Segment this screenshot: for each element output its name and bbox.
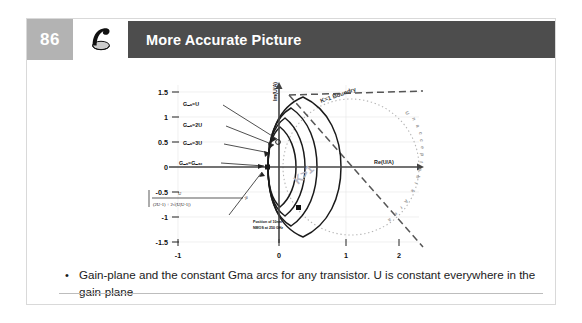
x-tick-marks — [178, 239, 399, 246]
y-tick-label: 0.5 — [158, 138, 168, 147]
svg-text:A: A — [403, 198, 410, 205]
x-axis-label: Re(U/A) — [374, 159, 394, 165]
gma-3u-label: Gₘₐ=3U — [183, 140, 202, 146]
gma-u-label: Gₘₐ=U — [183, 101, 199, 107]
y-tick-label: -0.5 — [156, 188, 168, 197]
svg-text:U: U — [404, 110, 411, 116]
x-tick-label: -1 — [175, 251, 181, 260]
k1-boundary-label: K=1 Boundry — [319, 86, 357, 104]
formula-denominator: (2U-1) + 2√(U|U-1|) — [153, 202, 191, 207]
x-tick-label: 0 — [277, 251, 281, 260]
x-tick-label: 2 — [397, 251, 401, 260]
svg-text:b: b — [415, 175, 422, 180]
y-tick-label: -1 — [162, 213, 168, 222]
device-point-marker — [296, 205, 301, 210]
svg-text:c: c — [418, 131, 424, 135]
svg-text:e: e — [410, 188, 417, 194]
svg-text:n: n — [411, 116, 418, 121]
ribbon-swirl-logo-icon — [73, 19, 128, 60]
y-tick-label: -1.5 — [156, 238, 168, 247]
y-tick-label: 1 — [164, 113, 168, 122]
y-tick-label: 0 — [164, 163, 168, 172]
gma-2u-label: Gₘₐ=2U — [183, 122, 202, 128]
svg-text:l: l — [413, 182, 419, 186]
slide-title-bar: More Accurate Picture — [128, 21, 555, 58]
slide-bullet: • Gain-plane and the constant Gma arcs f… — [65, 267, 537, 301]
formula-exponent: -jθ — [244, 196, 248, 200]
y-axis-label: Im(U/A) — [272, 82, 278, 101]
svg-text:t: t — [419, 161, 425, 164]
bullet-text: Gain-plane and the constant Gma arcs for… — [79, 267, 537, 301]
slide-canvas: 86 More Accurate Picture — [26, 18, 556, 305]
page-title: More Accurate Picture — [128, 32, 301, 48]
gma-gmax-label: Gₘₐ=Gₘₐₓ — [179, 160, 202, 166]
footer-divider — [59, 293, 543, 294]
slide-number-badge: 86 — [27, 19, 73, 60]
svg-text:r: r — [399, 205, 405, 211]
bullet-marker: • — [65, 267, 79, 301]
svg-text:p: p — [420, 153, 426, 157]
gain-plane-chart: 1.5 1 0.5 0 -0.5 -1 -1.5 -1 0 1 2 — [131, 65, 431, 265]
device-point-label-line2: NMOS at 250 GHz — [253, 226, 283, 230]
gain-plane-plot: 1.5 1 0.5 0 -0.5 -1 -1.5 -1 0 1 2 — [131, 65, 431, 265]
x-tick-label: 1 — [344, 251, 348, 260]
slide-header: 86 More Accurate Picture — [27, 19, 555, 60]
svg-text:c: c — [419, 139, 425, 142]
device-point-label-line1: Position of 10nm — [253, 220, 282, 224]
y-tick-label: 1.5 — [158, 88, 168, 97]
svg-text:a: a — [415, 124, 421, 128]
svg-text:e: e — [420, 146, 426, 149]
svg-text:a: a — [417, 168, 424, 173]
